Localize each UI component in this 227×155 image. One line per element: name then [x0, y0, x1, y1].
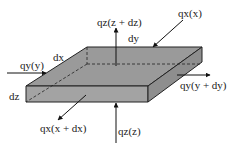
label-qx-in: qx(x) [178, 8, 202, 19]
label-qy-in: qy(y) [20, 60, 44, 71]
label-dy: dy [128, 33, 139, 44]
label-qx-out: qx(x + dx) [40, 123, 87, 134]
label-dx: dx [53, 52, 64, 63]
label-qz-in: qz(z) [118, 126, 141, 137]
label-dz: dz [9, 91, 19, 102]
label-qy-out: qy(y + dy) [180, 80, 227, 91]
arrow-qx-in [153, 20, 183, 47]
label-qz-out: qz(z + dz) [97, 17, 142, 28]
slab-front-face [26, 86, 148, 102]
